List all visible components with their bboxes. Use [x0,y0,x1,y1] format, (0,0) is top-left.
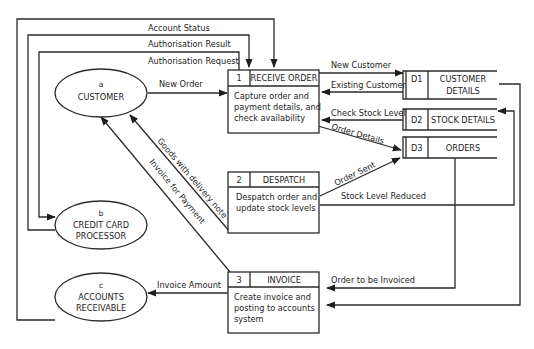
process-invoice: 3 INVOICE Create invoice and posting to … [228,272,319,333]
datastore-id: D3 [411,143,423,153]
data-flow-diagram: a CUSTOMER b CREDIT CARD PROCESSOR c ACC… [0,0,534,349]
process-description: check availability [234,113,305,123]
label-order-sent: Order Sent [332,159,377,188]
label-new-customer: New Customer [331,60,392,70]
process-receive-order: 1 RECEIVE ORDER Capture order and paymen… [228,70,321,133]
process-description: Create invoice and [234,292,311,302]
datastore-id: D2 [411,115,423,125]
label-order-details: Order Details [330,121,385,146]
entity-name: CUSTOMER [78,92,125,102]
entity-name: RECEIVABLE [76,303,126,313]
process-number: 2 [236,175,241,185]
process-description: payment details, and [234,102,321,112]
datastore-name: ORDERS [446,143,481,153]
process-number: 3 [236,275,241,285]
label-authorisation-request: Authorisation Request [148,56,239,66]
datastore-orders: D3 ORDERS [403,137,497,158]
entity-name: PROCESSOR [76,231,127,241]
process-description: update stock levels [236,203,316,213]
entity-id: b [99,209,104,218]
process-description: Capture order and [234,91,309,101]
datastore-customer-details: D1 CUSTOMER DETAILS [403,71,497,99]
label-check-stock-level: Check Stock Level [331,108,406,118]
datastore-name: STOCK DETAILS [431,115,495,125]
process-description: posting to accounts [234,303,315,313]
flow-goods-with-delivery-note [130,115,230,232]
process-name: RECEIVE ORDER [251,73,318,83]
label-stock-level-reduced: Stock Level Reduced [341,191,426,201]
entity-id: c [99,281,103,290]
process-name: INVOICE [267,275,301,285]
label-existing-customer: Existing Customer [331,80,406,90]
datastore-stock-details: D2 STOCK DETAILS [403,109,497,130]
entity-accounts-receivable: c ACCOUNTS RECEIVABLE [55,273,147,321]
label-invoice-amount: Invoice Amount [157,280,222,290]
label-new-order: New Order [159,79,203,89]
process-number: 1 [236,73,241,83]
entity-customer: a CUSTOMER [55,69,147,117]
entity-credit-card-processor: b CREDIT CARD PROCESSOR [55,201,147,249]
datastore-name: DETAILS [446,86,480,96]
entity-id: a [99,80,104,89]
label-authorisation-result: Authorisation Result [148,39,231,49]
process-description: Despatch order and [236,192,317,202]
datastore-id: D1 [411,74,423,84]
process-despatch: 2 DESPATCH Despatch order and update sto… [228,172,319,233]
label-order-to-be-invoiced: Order to be Invoiced [331,275,415,285]
entity-name: CREDIT CARD [73,220,129,230]
datastore-name: CUSTOMER [440,74,487,84]
process-name: DESPATCH [263,175,305,185]
label-account-status: Account Status [148,23,210,33]
process-description: system [234,314,264,324]
entity-name: ACCOUNTS [78,292,124,302]
